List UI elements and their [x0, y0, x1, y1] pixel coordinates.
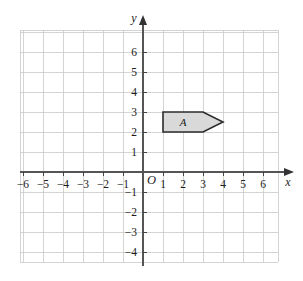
x-tick-label: 5 [240, 178, 246, 190]
x-tick-label: 2 [180, 178, 186, 190]
shape-label-a: A [179, 116, 187, 128]
y-tick-label: 6 [131, 46, 137, 58]
y-tick-label: −3 [125, 226, 137, 238]
shape-labels: A [179, 116, 187, 128]
coordinate-plane-figure: −6−5−4−3−2−1123456 654321−1−2−3−4 x y O … [0, 0, 303, 281]
y-tick-label: −2 [125, 206, 137, 218]
y-tick-label: −1 [125, 186, 137, 198]
y-tick-label: 4 [131, 86, 137, 98]
x-tick-label: −6 [17, 178, 29, 190]
y-tick-label: 3 [131, 106, 137, 118]
y-tick-label: 1 [131, 146, 137, 158]
x-tick-label: 1 [160, 178, 166, 190]
x-tick-label: −5 [37, 178, 49, 190]
x-tick-label: −3 [77, 178, 89, 190]
origin-label: O [147, 173, 156, 187]
x-tick-label: −4 [57, 178, 69, 190]
y-axis-label: y [130, 11, 137, 25]
y-tick-label: 5 [131, 66, 137, 78]
x-axis-label: x [284, 175, 291, 189]
x-tick-label: 6 [260, 178, 266, 190]
x-tick-label: −2 [97, 178, 109, 190]
x-tick-label: 4 [220, 178, 226, 190]
figure-background [0, 0, 303, 281]
y-tick-label: −4 [125, 246, 137, 258]
x-tick-label: 3 [200, 178, 206, 190]
coordinate-plane-svg: −6−5−4−3−2−1123456 654321−1−2−3−4 x y O … [0, 0, 303, 281]
y-tick-label: 2 [131, 126, 137, 138]
